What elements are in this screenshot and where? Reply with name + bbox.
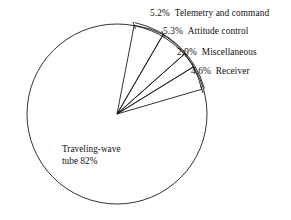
- slice-name-attitude-control: Attitude control: [188, 26, 249, 37]
- pie-slice-attitude-control: [117, 34, 185, 114]
- slice-name-traveling-wave-tube: Traveling-wave: [62, 144, 154, 156]
- slice-name-miscellaneous: Miscellaneous: [202, 47, 257, 58]
- slice-name-receiver: Receiver: [216, 66, 250, 77]
- slice-label-receiver: 4.6%Receiver: [191, 66, 250, 77]
- slice-label-telemetry: 5.2%Telemetry and command: [150, 8, 269, 19]
- slice-percent-miscellaneous: 2.9%: [177, 47, 197, 58]
- slice-name-telemetry: Telemetry and command: [175, 8, 269, 19]
- slice-percent-telemetry: 5.2%: [150, 8, 170, 19]
- slice-percent-attitude-control: 5.3%: [163, 26, 183, 37]
- pie-slice-telemetry: [117, 25, 163, 114]
- slice-label-miscellaneous: 2.9%Miscellaneous: [177, 47, 257, 58]
- slice-label-attitude-control: 5.3%Attitude control: [163, 26, 249, 37]
- slice-label-traveling-wave-tube: Traveling-wave tube 82%: [62, 144, 154, 167]
- pie-slice-miscellaneous: [117, 54, 193, 114]
- slice-percent-receiver: 4.6%: [191, 66, 211, 77]
- slice-percent-traveling-wave-tube: tube 82%: [62, 156, 154, 168]
- pie-chart: 5.2%Telemetry and command 5.3%Attitude c…: [0, 0, 291, 220]
- pie-slice-receiver: [117, 67, 202, 114]
